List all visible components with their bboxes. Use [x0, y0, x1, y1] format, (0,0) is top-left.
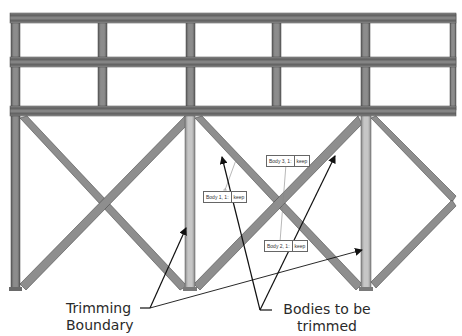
body-label-2: Body 2, 1: keep: [264, 240, 308, 252]
bodies-to-be-trimmed-callout: Bodies to be trimmed: [272, 301, 382, 335]
body-label-2-name: Body 2, 1:: [267, 241, 290, 251]
horizontal-beams: [10, 13, 456, 116]
body-label-1-action: keep: [231, 192, 245, 202]
body-label-3: Body 3, 1: keep: [266, 155, 310, 167]
frame-diagram: Body 1, 1: keep Body 3, 1: keep Body 2, …: [0, 0, 462, 336]
structure-drawing: [0, 0, 462, 336]
trimming-boundary-line2: Boundary: [66, 317, 146, 334]
body-label-3-name: Body 3, 1:: [269, 156, 292, 166]
body-label-3-action: keep: [294, 156, 308, 166]
body-label-2-action: keep: [292, 241, 306, 251]
cross-braces: [20, 116, 456, 290]
body-label-1: Body 1, 1: keep: [203, 191, 247, 203]
lower-columns: [9, 116, 373, 291]
bodies-trimmed-line2: trimmed: [272, 318, 382, 335]
bodies-trimmed-line1: Bodies to be: [272, 301, 382, 318]
trimming-boundary-line1: Trimming: [66, 300, 146, 317]
trimming-boundary-callout: Trimming Boundary: [66, 300, 146, 334]
body-label-1-name: Body 1, 1:: [206, 192, 229, 202]
